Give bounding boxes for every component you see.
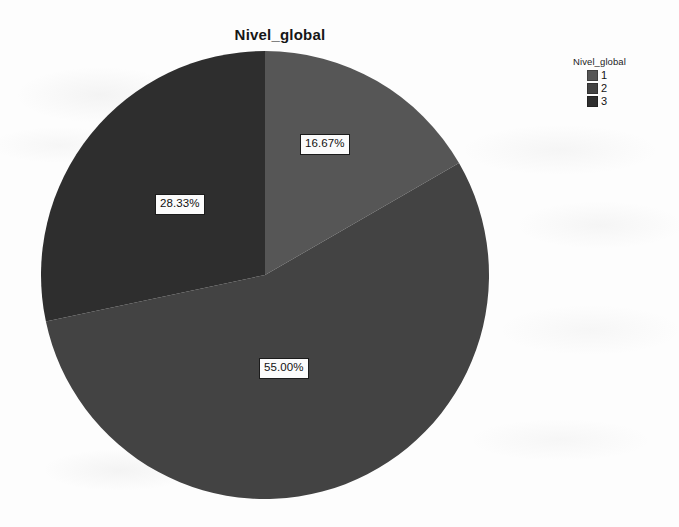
data-label-slice-2: 55.00% [259,358,309,379]
legend-swatch-3-icon [587,96,598,107]
legend-title: Nivel_global [573,56,673,67]
legend-label-1: 1 [601,70,607,81]
data-label-slice-3: 28.33% [155,194,205,215]
legend-swatch-1-icon [587,70,598,81]
legend-label-3: 3 [601,96,607,107]
legend-item-1[interactable]: 1 [587,70,673,81]
pie-chart-figure: Nivel_global 16.67% 55.00% 28.33% Nivel_… [0,0,679,527]
pie-plot-area [40,50,490,500]
pie-slices-group [41,51,489,499]
pie-svg [40,50,490,500]
legend: Nivel_global 1 2 3 [573,56,673,109]
chart-title: Nivel_global [0,26,560,43]
pie-slice-3[interactable] [41,51,265,322]
data-label-slice-1: 16.67% [300,134,350,155]
legend-item-3[interactable]: 3 [587,96,673,107]
legend-label-2: 2 [601,83,607,94]
legend-swatch-2-icon [587,83,598,94]
legend-item-2[interactable]: 2 [587,83,673,94]
